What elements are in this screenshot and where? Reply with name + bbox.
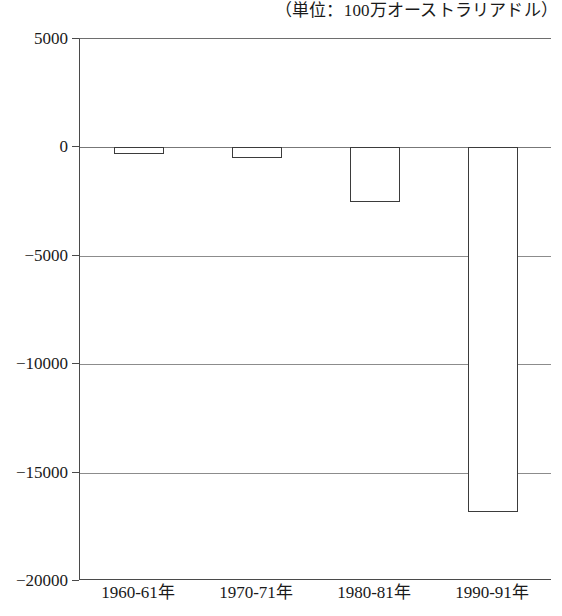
y-axis: 50000−5000−10000−15000−20000 xyxy=(0,0,79,616)
y-axis-label: −20000 xyxy=(16,572,68,589)
y-tick--20000 xyxy=(72,580,79,581)
bar xyxy=(114,147,164,154)
bar xyxy=(232,147,282,158)
y-axis-label: 5000 xyxy=(34,30,68,47)
bar-chart: （単位：100万オーストラリアドル） 50000−5000−10000−1500… xyxy=(0,0,562,616)
x-axis-label: 1990-91年 xyxy=(455,584,529,601)
y-tick--15000 xyxy=(72,472,79,473)
x-axis-label: 1980-81年 xyxy=(337,584,411,601)
y-tick--10000 xyxy=(72,363,79,364)
y-tick-5000 xyxy=(72,38,79,39)
y-tick-0 xyxy=(72,146,79,147)
chart-unit-caption: （単位：100万オーストラリアドル） xyxy=(275,2,558,19)
y-axis-label: −10000 xyxy=(16,355,68,372)
y-axis-label: −15000 xyxy=(16,463,68,480)
bar xyxy=(350,147,400,201)
x-axis-label: 1970-71年 xyxy=(219,584,293,601)
y-axis-label: 0 xyxy=(60,138,69,155)
plot-area xyxy=(79,38,551,580)
x-axis-label: 1960-61年 xyxy=(101,584,175,601)
bar xyxy=(468,147,518,511)
x-axis: 1960-61年1970-71年1980-81年1990-91年 xyxy=(79,584,551,616)
y-tick--5000 xyxy=(72,255,79,256)
y-axis-label: −5000 xyxy=(24,246,68,263)
